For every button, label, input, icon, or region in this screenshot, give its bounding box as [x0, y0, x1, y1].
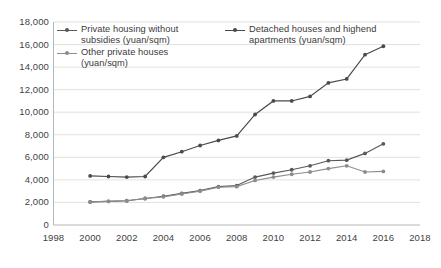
x-tick-label: 2002	[107, 233, 147, 243]
legend-item-detached-houses-and-highend-apartments: Detached houses and highend apartments (…	[225, 24, 395, 46]
legend-marker-icon	[57, 25, 77, 36]
x-tick-label: 1998	[34, 233, 74, 243]
legend-marker-icon	[225, 25, 245, 36]
x-tick-label: 2000	[70, 233, 110, 243]
x-tick-label: 2018	[400, 233, 440, 243]
legend-marker-icon	[57, 48, 77, 59]
legend-item-label: Detached houses and highend apartments (…	[249, 24, 376, 46]
x-tick-label: 2016	[363, 233, 403, 243]
chart-legend: Private housing without subsidies (yuan/…	[57, 24, 387, 72]
x-tick-label: 2010	[253, 233, 293, 243]
x-tick-label: 2006	[180, 233, 220, 243]
line-chart: 18,00016,00014,00012,00010,0008,0006,000…	[0, 0, 441, 268]
x-tick-label: 2014	[327, 233, 367, 243]
x-tick-label: 2004	[143, 233, 183, 243]
legend-item-label: Private housing without subsidies (yuan/…	[81, 24, 178, 46]
x-tick-label: 2012	[290, 233, 330, 243]
legend-item-other-private-houses: Other private houses (yuan/sqm)	[57, 47, 222, 69]
legend-item-label: Other private houses (yuan/sqm)	[81, 47, 168, 69]
x-tick-label: 2008	[217, 233, 257, 243]
legend-item-private-housing-without-subsidies: Private housing without subsidies (yuan/…	[57, 24, 222, 46]
